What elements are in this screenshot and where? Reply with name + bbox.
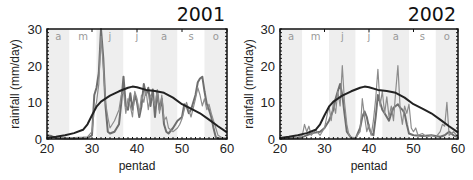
y-tick-label: 10	[261, 95, 275, 110]
month-label: s	[188, 31, 193, 42]
rainfall-chart-2001: amjjaso 0102030 2030405060 2001 pentad r…	[0, 0, 236, 180]
month-band	[329, 29, 356, 139]
y-tick-label: 30	[261, 22, 275, 37]
month-band	[280, 29, 302, 139]
y-tick-label: 20	[261, 59, 275, 74]
x-tick-label: 20	[40, 141, 54, 156]
month-band	[47, 29, 70, 139]
month-band	[178, 29, 205, 139]
chart-title: 2002	[408, 3, 456, 25]
y-axis-label: rainfall (mm/day)	[8, 39, 22, 128]
month-label: m	[311, 31, 321, 42]
month-bands	[47, 29, 227, 139]
month-band	[124, 29, 151, 139]
month-band	[382, 29, 409, 139]
month-band	[436, 29, 458, 139]
y-axis-ticks: 0102030	[261, 22, 275, 147]
month-label: j	[108, 31, 112, 42]
rainfall-chart-2002: amjjaso 0102030 2030405060 2002 pentad r…	[236, 0, 473, 180]
month-label: a	[55, 31, 61, 42]
month-label: a	[288, 31, 294, 42]
x-axis-ticks: 2030405060	[273, 141, 465, 156]
month-bands	[280, 29, 458, 139]
x-tick-label: 50	[406, 141, 420, 156]
month-label: m	[78, 31, 88, 42]
chart-panel-2001: amjjaso 0102030 2030405060 2001 pentad r…	[0, 0, 236, 180]
chart-panel-2002: amjjaso 0102030 2030405060 2002 pentad r…	[236, 0, 473, 180]
x-tick-label: 40	[130, 141, 144, 156]
y-tick-label: 20	[28, 59, 42, 74]
y-tick-label: 30	[28, 22, 42, 37]
x-axis-label: pentad	[351, 159, 388, 173]
x-tick-label: 50	[175, 141, 189, 156]
month-label: j	[340, 31, 344, 42]
month-label: j	[367, 31, 371, 42]
month-band	[302, 29, 329, 139]
x-tick-label: 30	[85, 141, 99, 156]
x-tick-label: 30	[317, 141, 331, 156]
month-label: a	[161, 31, 167, 42]
y-tick-label: 10	[28, 95, 42, 110]
x-axis-label: pentad	[119, 159, 156, 173]
month-label: a	[393, 31, 399, 42]
x-tick-label: 40	[362, 141, 376, 156]
month-label: s	[420, 31, 425, 42]
month-band	[409, 29, 436, 139]
y-axis-ticks: 0102030	[28, 22, 42, 147]
x-tick-label: 60	[220, 141, 234, 156]
month-label: o	[444, 31, 450, 42]
month-label: o	[213, 31, 219, 42]
x-axis-ticks: 2030405060	[40, 141, 234, 156]
y-axis-label: rainfall (mm/day)	[242, 39, 256, 128]
x-tick-label: 20	[273, 141, 287, 156]
chart-title: 2001	[177, 3, 225, 25]
month-label: j	[135, 31, 139, 42]
month-band	[205, 29, 228, 139]
x-tick-label: 60	[451, 141, 465, 156]
